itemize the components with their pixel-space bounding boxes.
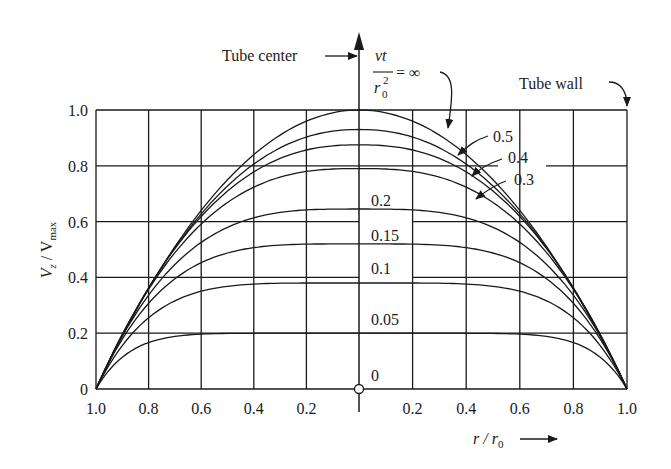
svg-text:0.3: 0.3 bbox=[514, 171, 534, 188]
y-tick-labels: 00.20.40.60.81.0 bbox=[68, 102, 88, 398]
tube-wall-label: Tube wall bbox=[519, 75, 583, 92]
svg-text:0.4: 0.4 bbox=[68, 269, 88, 286]
y-axis-label: Vz / Vmax bbox=[38, 221, 58, 278]
origin-marker bbox=[355, 385, 364, 394]
velocity-profile-chart: 00.20.40.60.81.0 1.00.80.60.40.20.20.40.… bbox=[0, 0, 671, 469]
svg-text:1.0: 1.0 bbox=[617, 400, 637, 417]
svg-text:0.1: 0.1 bbox=[371, 260, 391, 277]
svg-text:0.8: 0.8 bbox=[139, 400, 159, 417]
svg-text:0.15: 0.15 bbox=[371, 227, 399, 244]
svg-text:1.0: 1.0 bbox=[86, 400, 106, 417]
velocity-curves bbox=[96, 110, 627, 389]
svg-text:0.2: 0.2 bbox=[371, 192, 391, 209]
svg-text:r: r bbox=[374, 79, 381, 96]
svg-text:0: 0 bbox=[80, 381, 88, 398]
svg-text:= ∞: = ∞ bbox=[396, 64, 420, 81]
svg-text:0.6: 0.6 bbox=[68, 214, 88, 231]
curve-0.4 bbox=[96, 145, 627, 389]
infinity-arrow-icon bbox=[440, 72, 452, 128]
tube-center-label: Tube center bbox=[222, 47, 298, 64]
center-axis-arrowhead-icon bbox=[354, 32, 364, 50]
svg-text:2: 2 bbox=[383, 74, 389, 86]
x-axis-label: r / r0 bbox=[473, 430, 504, 450]
svg-text:0: 0 bbox=[371, 367, 379, 384]
curve-0.2 bbox=[96, 209, 627, 389]
svg-text:0: 0 bbox=[382, 88, 388, 100]
svg-text:0.5: 0.5 bbox=[493, 128, 513, 145]
svg-text:1.0: 1.0 bbox=[68, 102, 88, 119]
svg-text:vt: vt bbox=[375, 47, 387, 64]
curve-0.05 bbox=[96, 333, 627, 389]
svg-text:0.8: 0.8 bbox=[68, 158, 88, 175]
svg-text:0.6: 0.6 bbox=[510, 400, 530, 417]
svg-text:0.4: 0.4 bbox=[244, 400, 264, 417]
parameter-label: vt r 2 0 = ∞ bbox=[373, 47, 420, 100]
svg-text:0.2: 0.2 bbox=[403, 400, 423, 417]
svg-text:0.2: 0.2 bbox=[296, 400, 316, 417]
svg-text:0.8: 0.8 bbox=[563, 400, 583, 417]
x-tick-labels: 1.00.80.60.40.20.20.40.60.81.0 bbox=[86, 400, 637, 417]
svg-text:0.6: 0.6 bbox=[191, 400, 211, 417]
svg-text:0.4: 0.4 bbox=[456, 400, 476, 417]
svg-text:0.2: 0.2 bbox=[68, 325, 88, 342]
svg-text:0.05: 0.05 bbox=[371, 311, 399, 328]
svg-text:0.4: 0.4 bbox=[508, 149, 528, 166]
tube-wall-arrow-icon bbox=[609, 82, 627, 106]
